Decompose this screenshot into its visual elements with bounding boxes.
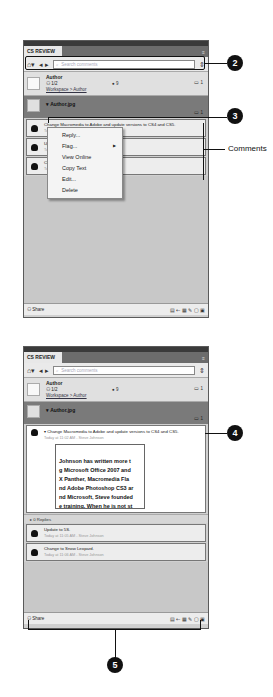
comment-count: ▭ 1 [194, 80, 203, 85]
callout-3-tick [48, 117, 49, 123]
callout-2-line [205, 63, 227, 64]
avatar-icon [31, 125, 38, 132]
home-icon[interactable]: ⌂▾ [27, 367, 35, 374]
avatar-icon [31, 163, 38, 170]
callout-2-bracket [25, 56, 205, 70]
callout-4-line [205, 433, 227, 434]
breadcrumb-link[interactable]: Workspace > Author [46, 87, 87, 92]
action-icons[interactable]: ▤ ⇠ ▦ ✎ ▢ ▣ [170, 307, 205, 313]
author-row[interactable]: Author ⚇ 1/2 Workspace > Author ● 9 ▭ 1 [24, 378, 208, 402]
menu-item-view-online[interactable]: View Online [48, 152, 122, 163]
callout-5: 5 [107, 657, 123, 673]
tab-cs-review[interactable]: CS REVIEW [24, 352, 62, 363]
tab-row: CS REVIEW ≡ [24, 352, 208, 363]
menu-item-reply[interactable]: Reply... [48, 130, 122, 141]
callout-5-bracket [28, 620, 201, 630]
submenu-arrow-icon: ▶ [113, 143, 116, 148]
avatar-icon [31, 530, 38, 537]
comments-label: Comments [228, 144, 267, 153]
views-count: ● 9 [112, 81, 118, 86]
callout-2: 2 [227, 55, 243, 71]
panel-menu-icon[interactable]: ≡ [202, 49, 208, 55]
nav-arrows-icon[interactable]: ◂ ▸ [39, 367, 49, 374]
author-thumbnail [27, 383, 40, 396]
menu-item-delete[interactable]: Delete [48, 185, 122, 196]
search-icon: ⌕ [56, 368, 59, 373]
share-button[interactable]: ⚇ Share [27, 307, 44, 312]
document-row[interactable]: ▾ Author.jpg ▭ 1 [24, 96, 208, 118]
callout-4: 4 [227, 425, 243, 441]
document-title: ▾ Author.jpg [46, 101, 75, 107]
document-thumbnail [27, 405, 40, 418]
author-row[interactable]: Author ⚇ 1/2 Workspace > Author ● 9 ▭ 1 [24, 72, 208, 96]
callout-3-line [48, 117, 227, 118]
comments-line [203, 149, 225, 150]
search-input[interactable]: ⌕ Search comments [53, 366, 195, 375]
document-thumbnail [27, 99, 40, 112]
document-title: ▾ Author.jpg [46, 407, 75, 413]
avatar-icon [31, 144, 38, 151]
status-bar: ⚇ Share ▤ ⇠ ▦ ✎ ▢ ▣ [24, 303, 208, 315]
panel-menu-icon[interactable]: ≡ [202, 355, 208, 361]
context-menu: Reply... Flag...▶ View Online Copy Text … [47, 127, 123, 199]
menu-item-edit[interactable]: Edit... [48, 174, 122, 185]
document-comment-count: ▭ 1 [194, 416, 203, 421]
replies-toggle[interactable]: ▸ 0 Replies [24, 514, 208, 523]
author-name: Author [46, 74, 62, 80]
empty-area [24, 562, 208, 612]
menu-item-copy-text[interactable]: Copy Text [48, 163, 122, 174]
breadcrumb-link[interactable]: Workspace > Author [46, 393, 87, 398]
avatar-icon [31, 549, 38, 556]
callout-5-line [115, 630, 116, 658]
comment-item[interactable]: Update to 5S.Today at 11:05 AM - Steve J… [26, 524, 206, 542]
cs-review-panel-bottom: CS REVIEW ≡ ⌂▾ ◂ ▸ ⌕ Search comments ⇕ A… [23, 346, 209, 629]
toolbar: ⌂▾ ◂ ▸ ⌕ Search comments ⇕ [24, 363, 208, 378]
author-thumbnail [27, 77, 40, 90]
expanded-comment[interactable]: ▾ Change Macromedia to Adobe and update … [26, 425, 206, 513]
menu-item-flag[interactable]: Flag...▶ [48, 141, 122, 152]
comment-item[interactable]: Change to Snow Leopard.Today at 11:06 AM… [26, 543, 206, 561]
avatar-icon [31, 429, 38, 436]
comment-count: ▭ 1 [194, 386, 203, 391]
views-count: ● 9 [112, 387, 118, 392]
document-comment-count: ▭ 1 [194, 110, 203, 115]
document-row[interactable]: ▾ Author.jpg ▭ 1 [24, 402, 208, 424]
scroll-icon[interactable]: ⇕ [199, 367, 205, 374]
comments-bracket [203, 123, 204, 180]
comment-preview-image[interactable]: Johnson has written more t g Microsoft O… [55, 444, 145, 509]
callout-3: 3 [227, 108, 243, 124]
author-name: Author [46, 380, 62, 386]
